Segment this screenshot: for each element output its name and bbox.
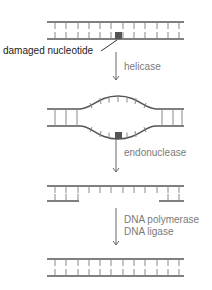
top-strand-separated (47, 96, 184, 109)
damaged-nucleotide-marker (115, 32, 122, 39)
base-bottom (100, 131, 101, 137)
callout-pointer-line (101, 40, 117, 51)
base-bottom (135, 131, 136, 137)
endonuclease-label: endonuclease (124, 147, 186, 158)
base-top (135, 98, 136, 104)
repair-diagram (0, 0, 212, 290)
stage-repaired-dna (47, 259, 184, 276)
base-top (100, 98, 101, 104)
damaged-nucleotide-label: damaged nucleotide (3, 45, 93, 56)
stage-unwound-bubble (47, 96, 184, 139)
stage-damaged-dna (47, 22, 184, 39)
stage-excised-gap (47, 186, 184, 201)
step-arrows (113, 52, 119, 245)
dna-polymerase-label: DNA polymerase (124, 214, 199, 225)
dna-ligase-label: DNA ligase (124, 226, 173, 237)
damaged-nucleotide-marker (115, 132, 122, 139)
helicase-label: helicase (124, 61, 161, 72)
